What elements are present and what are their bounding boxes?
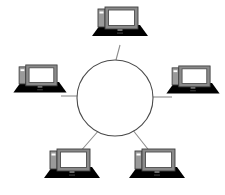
node-right[interactable] — [166, 66, 219, 94]
topology-canvas — [0, 0, 225, 195]
computer-icon — [129, 149, 185, 178]
link-hub-to-node-top — [116, 45, 120, 60]
computer-icon — [92, 7, 148, 36]
computer-icon — [13, 65, 66, 93]
computer-icon — [166, 66, 219, 94]
node-bottom-left[interactable] — [44, 149, 100, 178]
node-top[interactable] — [92, 7, 148, 36]
hub-group — [77, 60, 153, 136]
network-topology-diagram — [0, 0, 225, 195]
hub-circle — [77, 60, 153, 136]
node-left[interactable] — [13, 65, 66, 93]
node-bottom-right[interactable] — [129, 149, 185, 178]
computer-icon — [44, 149, 100, 178]
